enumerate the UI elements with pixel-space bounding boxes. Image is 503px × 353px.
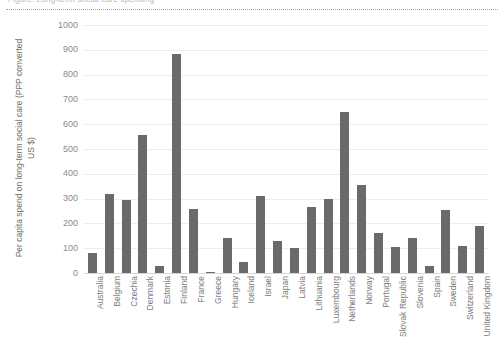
bar-netherlands[interactable]	[340, 112, 349, 273]
x-axis-label-belgium: Belgium	[113, 276, 122, 353]
x-axis-label-spain: Spain	[433, 276, 442, 353]
x-axis-label-portugal: Portugal	[382, 276, 391, 353]
bar-luxembourg[interactable]	[324, 199, 333, 273]
plot-area	[84, 25, 488, 273]
bar-hungary[interactable]	[223, 238, 232, 273]
bar-slovenia[interactable]	[408, 238, 417, 273]
x-axis-label-slovenia: Slovenia	[416, 276, 425, 353]
bar-series	[84, 25, 488, 273]
top-strip: Figure: Long-term social care spending	[0, 0, 503, 14]
x-axis-label-finland: Finland	[180, 276, 189, 353]
x-axis-label-sweden: Sweden	[449, 276, 458, 353]
x-axis-label-lithuania: Lithuania	[315, 276, 324, 353]
x-axis-label-estonia: Estonia	[163, 276, 172, 353]
bar-iceland[interactable]	[239, 262, 248, 273]
bar-denmark[interactable]	[138, 135, 147, 273]
x-axis-label-hungary: Hungary	[231, 276, 240, 353]
x-axis-label-denmark: Denmark	[146, 276, 155, 353]
x-axis-label-czechia: Czechia	[130, 276, 139, 353]
x-axis-label-latvia: Latvia	[298, 276, 307, 353]
x-axis-label-united-kingdom: United Kingdom	[483, 276, 492, 353]
x-axis-label-australia: Australia	[96, 276, 105, 353]
bar-united-kingdom[interactable]	[475, 226, 484, 273]
y-axis-tick-900: 900	[63, 45, 78, 54]
bar-switzerland[interactable]	[458, 246, 467, 273]
x-axis-label-netherlands: Netherlands	[348, 276, 357, 353]
bar-israel[interactable]	[256, 196, 265, 273]
y-axis-tick-100: 100	[63, 244, 78, 253]
y-axis-tick-800: 800	[63, 70, 78, 79]
y-axis-tick-400: 400	[63, 169, 78, 178]
x-axis-tick-labels: AustraliaBelgiumCzechiaDenmarkEstoniaFin…	[84, 276, 488, 353]
x-axis-label-israel: Israel	[264, 276, 273, 353]
bar-slovak-republic[interactable]	[391, 247, 400, 273]
x-axis-label-luxembourg: Luxembourg	[332, 276, 341, 353]
y-axis-tick-0: 0	[73, 269, 78, 278]
y-axis-tick-700: 700	[63, 95, 78, 104]
bar-estonia[interactable]	[155, 266, 164, 273]
x-axis-label-japan: Japan	[281, 276, 290, 353]
bar-portugal[interactable]	[374, 233, 383, 273]
x-axis-label-switzerland: Switzerland	[466, 276, 475, 353]
x-axis-label-norway: Norway	[365, 276, 374, 353]
y-axis-tick-200: 200	[63, 219, 78, 228]
dotted-divider	[6, 9, 498, 10]
clipped-heading: Figure: Long-term social care spending	[8, 0, 154, 4]
bar-finland[interactable]	[172, 54, 181, 273]
bar-spain[interactable]	[425, 266, 434, 273]
bar-latvia[interactable]	[290, 248, 299, 273]
bar-lithuania[interactable]	[307, 207, 316, 273]
y-axis-tick-500: 500	[63, 145, 78, 154]
x-axis-label-france: France	[197, 276, 206, 353]
y-axis-tick-labels: 10009008007006005004003002001000	[40, 14, 82, 274]
y-axis-title: Per capita spend on long-term social car…	[8, 32, 42, 264]
x-axis-label-slovak-republic: Slovak Republic	[399, 276, 408, 353]
y-axis-tick-1000: 1000	[58, 21, 78, 30]
x-axis-label-iceland: Iceland	[247, 276, 256, 353]
bar-czechia[interactable]	[122, 200, 131, 273]
bar-japan[interactable]	[273, 241, 282, 273]
bar-australia[interactable]	[88, 253, 97, 273]
y-axis-tick-600: 600	[63, 120, 78, 129]
bar-sweden[interactable]	[441, 210, 450, 273]
bar-chart-figure: Per capita spend on long-term social car…	[0, 14, 503, 353]
y-axis-tick-300: 300	[63, 194, 78, 203]
x-axis-label-greece: Greece	[214, 276, 223, 353]
x-axis-baseline	[84, 273, 488, 274]
bar-norway[interactable]	[357, 185, 366, 273]
bar-belgium[interactable]	[105, 194, 114, 273]
bar-france[interactable]	[189, 209, 198, 273]
